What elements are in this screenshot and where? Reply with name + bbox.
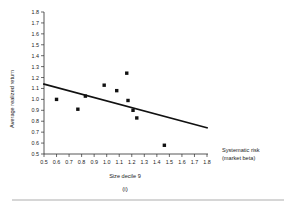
y-tick-label: 1.4 [32,53,40,59]
x-tick-label: 1.7 [191,159,199,165]
trend-line [44,84,207,128]
data-points [55,71,166,146]
regression-line [44,84,207,128]
data-point-marker [163,144,166,147]
data-point-marker [135,116,138,119]
x-axis-title: Size decile 9 [109,173,141,179]
y-tick-label: 0.6 [32,140,40,146]
chart-axes [44,12,208,154]
y-tick-label: 1.8 [32,9,40,15]
x-tick-label: 1.6 [178,159,186,165]
data-point-marker [76,108,79,111]
x-axis-secondary-title-line2: (market beta) [222,155,255,161]
data-point-marker [102,83,105,86]
x-axis-tick-labels: 0.50.60.70.80.91.01.11.21.31.41.51.61.71… [40,159,211,165]
x-tick-label: 0.8 [78,159,86,165]
data-point-marker [55,98,58,101]
data-point-marker [131,109,134,112]
x-tick-label: 1.8 [203,159,211,165]
y-tick-label: 1.7 [32,20,40,26]
x-axis-secondary-title-line1: Systematic risk [222,147,260,153]
y-tick-label: 1.6 [32,31,40,37]
y-tick-label: 1.3 [32,64,40,70]
y-tick-label: 1.5 [32,42,40,48]
x-tick-label: 0.5 [40,159,48,165]
y-tick-label: 1.0 [32,96,40,102]
scatter-chart: 0.50.60.70.80.91.01.11.21.31.41.51.61.71… [0,0,296,205]
data-point-marker [84,94,87,97]
x-tick-label: 1.3 [141,159,149,165]
y-axis-tick-labels: 0.50.60.70.80.91.01.11.21.31.41.51.61.71… [32,9,40,157]
y-tick-label: 0.5 [32,151,40,157]
x-tick-label: 1.5 [166,159,174,165]
data-point-marker [126,99,129,102]
y-tick-label: 1.2 [32,75,40,81]
axis-ticks [41,12,207,157]
y-tick-label: 0.8 [32,118,40,124]
y-axis-title: Average realized return [9,70,15,128]
x-tick-label: 0.7 [65,159,73,165]
x-tick-label: 1.1 [115,159,123,165]
x-tick-label: 0.9 [90,159,98,165]
panel-label: (i) [122,185,128,192]
figure-panel: 0.50.60.70.80.91.01.11.21.31.41.51.61.71… [0,0,296,205]
data-point-marker [115,89,118,92]
x-tick-label: 1.2 [128,159,136,165]
x-tick-label: 0.6 [53,159,61,165]
x-tick-label: 1.4 [153,159,161,165]
data-point-marker [125,71,128,74]
y-tick-label: 0.9 [32,107,40,113]
y-tick-label: 0.7 [32,129,40,135]
x-tick-label: 1.0 [103,159,111,165]
y-tick-label: 1.1 [32,85,40,91]
